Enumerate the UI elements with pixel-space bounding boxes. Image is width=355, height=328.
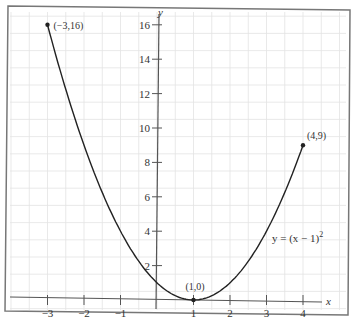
point-label: (−3,16): [54, 20, 84, 32]
chart-border: [5, 6, 350, 315]
y-axis-label: y: [157, 6, 163, 18]
chart-figure: −3−2−11234 246810121416 x y (−3,16)(1,0)…: [0, 0, 355, 328]
point-label: (1,0): [186, 281, 205, 293]
y-tick-label: 6: [145, 191, 151, 203]
x-tick-label: −2: [78, 307, 90, 319]
point-marker: [301, 143, 305, 147]
function-label-text: y = (x − 1): [272, 232, 320, 245]
x-tick-label: −1: [115, 307, 127, 319]
y-tick-label: 16: [139, 19, 151, 31]
y-tick-label: 8: [145, 156, 151, 168]
x-axis-label: x: [325, 295, 331, 307]
y-tick-label: 12: [139, 88, 150, 100]
x-tick-label: −3: [42, 307, 54, 319]
function-label: y = (x − 1)2: [272, 230, 323, 245]
x-tick-label: 4: [300, 307, 306, 319]
x-tick-label: 1: [191, 307, 197, 319]
function-label-exponent: 2: [319, 230, 323, 239]
x-tick-label: 3: [264, 307, 270, 319]
y-tick-label: 10: [139, 122, 151, 134]
point-marker: [45, 23, 49, 27]
point-marker: [191, 298, 195, 302]
y-tick-label: 14: [139, 53, 151, 65]
y-tick-label: 4: [145, 225, 151, 237]
point-label: (4,9): [307, 130, 326, 142]
x-tick-label: 2: [227, 307, 233, 319]
